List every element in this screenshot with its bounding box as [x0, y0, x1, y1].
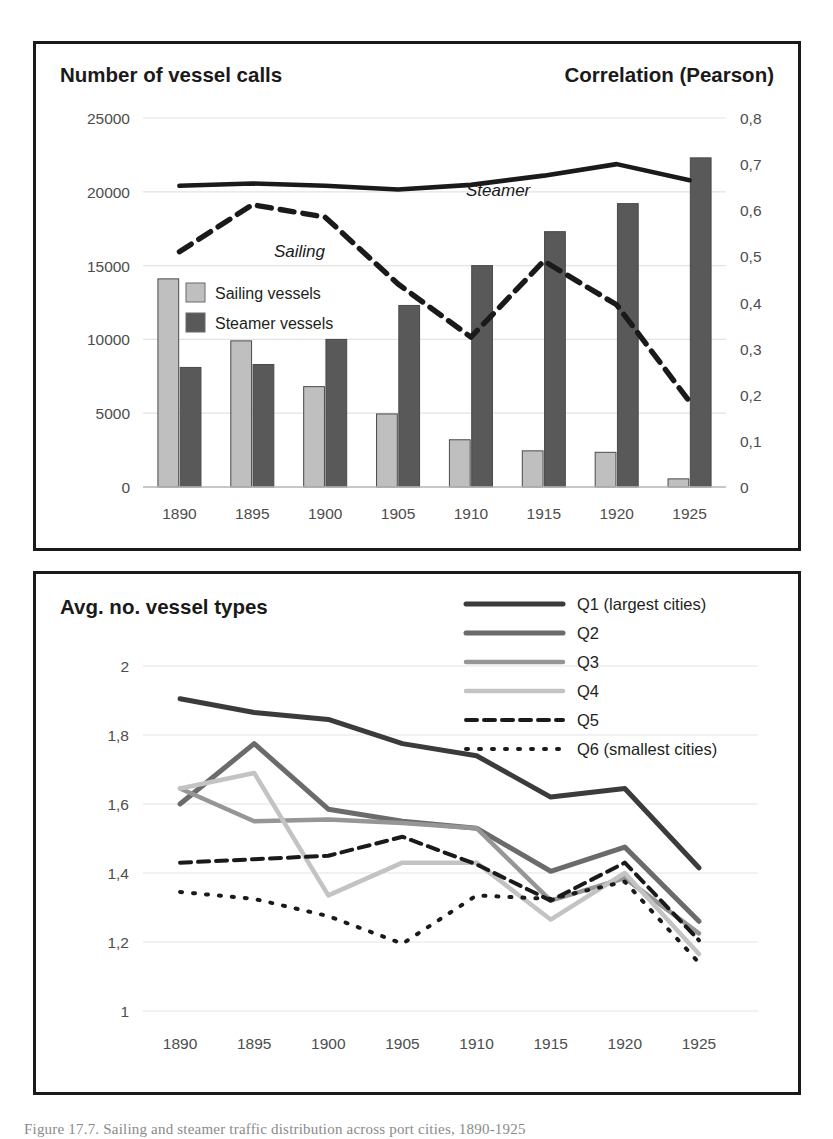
y-axis-tick-label: 20000	[87, 184, 130, 201]
x-axis-tick-label-1895: 1895	[237, 1035, 271, 1052]
y2-axis-tick-label: 0,6	[740, 202, 762, 219]
chart-panel-vessel-types: Avg. no. vessel types11,21,41,61,82Q1 (l…	[33, 571, 801, 1095]
bar-sailing-vessels-1890	[158, 279, 179, 487]
legend-label-q1: Q1 (largest cities)	[577, 595, 706, 613]
x-axis-tick-label-1900: 1900	[308, 505, 343, 522]
chart-panel-vessel-calls: Number of vessel callsCorrelation (Pears…	[33, 41, 801, 551]
line-q2	[180, 744, 699, 922]
y-axis-tick-label: 2	[120, 658, 129, 675]
figure-container: Number of vessel callsCorrelation (Pears…	[0, 0, 833, 1139]
x-axis-tick-label-1910: 1910	[459, 1035, 494, 1052]
bar-sailing-vessels-1915	[522, 451, 543, 487]
y2-axis-tick-label: 0,8	[740, 110, 762, 127]
y2-axis-tick-label: 0,4	[740, 295, 762, 312]
panel-title-vessel-calls: Number of vessel calls	[60, 63, 282, 86]
x-axis-tick-label-1925: 1925	[682, 1035, 716, 1052]
legend-label-q2: Q2	[577, 624, 599, 642]
x-axis-tick-label-1915: 1915	[533, 1035, 567, 1052]
bar-steamer-vessels-1895	[253, 364, 274, 487]
y-axis-tick-label: 1,8	[107, 727, 129, 744]
bar-steamer-vessels-1925	[690, 158, 711, 487]
panel-title-vessel-types: Avg. no. vessel types	[60, 595, 268, 618]
y2-axis-tick-label: 0,1	[740, 433, 762, 450]
x-axis-tick-label-1905: 1905	[381, 505, 415, 522]
vessel-calls-chart: Number of vessel callsCorrelation (Pears…	[36, 44, 798, 548]
bar-steamer-vessels-1900	[326, 339, 347, 487]
line-q5	[180, 837, 699, 941]
y2-axis-tick-label: 0,2	[740, 387, 762, 404]
bar-steamer-vessels-1910	[472, 266, 493, 487]
x-axis-tick-label-1910: 1910	[454, 505, 489, 522]
bar-sailing-vessels-1905	[377, 414, 398, 487]
bar-steamer-vessels-1890	[180, 367, 201, 487]
legend-swatch-sailing	[186, 283, 205, 302]
legend-label-q3: Q3	[577, 653, 599, 671]
x-axis-tick-label-1900: 1900	[311, 1035, 346, 1052]
vessel-types-chart: Avg. no. vessel types11,21,41,61,82Q1 (l…	[36, 574, 798, 1092]
legend-label-q5: Q5	[577, 711, 599, 729]
bar-sailing-vessels-1910	[449, 440, 470, 487]
line-q6	[180, 882, 699, 963]
y2-axis-tick-label: 0,3	[740, 341, 762, 358]
panel-title-correlation: Correlation (Pearson)	[564, 63, 774, 86]
y-axis-tick-label: 5000	[96, 405, 131, 422]
y-axis-tick-label: 25000	[87, 110, 130, 127]
legend-label-q4: Q4	[577, 682, 599, 700]
line-steamer	[179, 164, 689, 189]
bar-steamer-vessels-1905	[399, 305, 420, 487]
annotation-steamer: Steamer	[466, 181, 532, 200]
bar-sailing-vessels-1925	[668, 479, 689, 487]
y-axis-tick-label: 15000	[87, 258, 130, 275]
y-axis-tick-label: 1,4	[107, 865, 129, 882]
annotation-sailing: Sailing	[274, 242, 326, 261]
figure-caption: Figure 17.7. Sailing and steamer traffic…	[24, 1121, 824, 1139]
bar-sailing-vessels-1920	[595, 452, 616, 487]
x-axis-tick-label-1895: 1895	[235, 505, 269, 522]
y2-axis-tick-label: 0	[740, 479, 749, 496]
legend-label-sailing: Sailing vessels	[215, 285, 321, 302]
x-axis-tick-label-1890: 1890	[162, 505, 197, 522]
legend-swatch-steamer	[186, 313, 205, 332]
y2-axis-tick-label: 0,7	[740, 156, 762, 173]
y2-axis-tick-label: 0,5	[740, 248, 762, 265]
y-axis-tick-label: 1,6	[107, 796, 129, 813]
x-axis-tick-label-1915: 1915	[527, 505, 561, 522]
y-axis-tick-label: 1,2	[107, 934, 129, 951]
x-axis-tick-label-1905: 1905	[385, 1035, 419, 1052]
bar-sailing-vessels-1900	[304, 387, 325, 487]
y-axis-tick-label: 0	[121, 479, 130, 496]
y-axis-tick-label: 1	[120, 1003, 129, 1020]
line-q4	[180, 773, 699, 954]
y-axis-tick-label: 10000	[87, 331, 130, 348]
bar-sailing-vessels-1895	[231, 341, 252, 487]
x-axis-tick-label-1890: 1890	[163, 1035, 198, 1052]
legend-label-steamer: Steamer vessels	[215, 315, 333, 332]
bar-steamer-vessels-1920	[617, 204, 638, 487]
x-axis-tick-label-1920: 1920	[608, 1035, 643, 1052]
x-axis-tick-label-1920: 1920	[599, 505, 634, 522]
legend-label-q6: Q6 (smallest cities)	[577, 740, 717, 758]
x-axis-tick-label-1925: 1925	[672, 505, 706, 522]
